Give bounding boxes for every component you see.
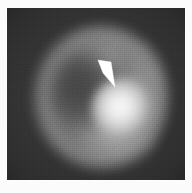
- film-grain-overlay: [7, 8, 185, 180]
- superior-arc-region: [69, 30, 145, 74]
- inferior-arc-region: [69, 116, 155, 168]
- arrow-head-polygon: [98, 60, 115, 87]
- scan-canvas: [7, 8, 185, 180]
- vignette-overlay: [7, 8, 185, 180]
- figure-root: [0, 0, 192, 193]
- annotation-arrow-icon: [7, 8, 185, 180]
- page-ghost-text: [8, 181, 184, 192]
- scan-image-frame[interactable]: [7, 8, 185, 180]
- uptake-halo-region: [33, 26, 167, 168]
- focal-hotspot-region: [91, 78, 153, 140]
- photopenic-center-region: [51, 54, 117, 128]
- uptake-ring-region: [37, 28, 165, 166]
- right-lateral-arc-region: [123, 44, 167, 148]
